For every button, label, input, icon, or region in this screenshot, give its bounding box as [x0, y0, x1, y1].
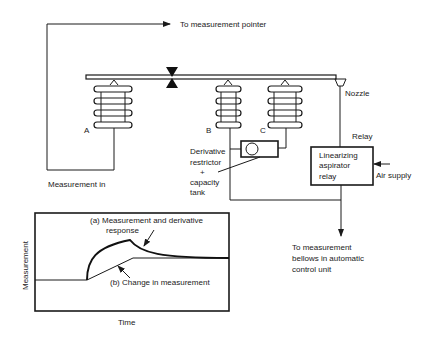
- series-b-label: (b) Change in measurement: [110, 278, 210, 287]
- chart-xlabel: Time: [118, 318, 136, 327]
- relay-box-label-1: Linearizing: [319, 151, 358, 160]
- relay-label: Relay: [352, 132, 372, 141]
- restrictor-tank: [241, 141, 278, 157]
- label-a: A: [84, 126, 90, 135]
- relay-box-label-3: relay: [319, 172, 336, 181]
- bellows-a: [94, 80, 132, 128]
- bellows-c: [268, 80, 302, 128]
- pneumatic-derivative-diagram: To measurement pointer A Measurement in …: [0, 0, 438, 338]
- nozzle-icon: [335, 79, 346, 86]
- series-a-label-1: (a) Measurement and derivative: [90, 216, 203, 225]
- chart-ylabel: Measurement: [21, 240, 30, 290]
- restrictor-label-2: restrictor: [190, 158, 221, 167]
- label-c: C: [260, 126, 266, 135]
- series-a-line: [87, 240, 229, 280]
- output-label-1: To measurement: [292, 243, 352, 252]
- nozzle-label: Nozzle: [345, 89, 370, 98]
- restrictor-label: Derivative: [190, 147, 226, 156]
- restrictor-icon: [246, 143, 258, 155]
- label-b: B: [206, 126, 211, 135]
- restrictor-label-4: capacity: [190, 178, 219, 187]
- measurement-in-label: Measurement in: [48, 180, 105, 189]
- output-label-2: bellows in automatic: [292, 254, 364, 263]
- restrictor-label-3: +: [200, 168, 205, 177]
- relay-box-label-2: aspirator: [319, 161, 350, 170]
- response-chart: Measurement Time (a) Measurement and der…: [21, 213, 229, 327]
- series-b-line: [35, 258, 229, 280]
- beam: [86, 75, 336, 79]
- output-label-3: control unit: [292, 265, 332, 274]
- series-a-label-2: response: [106, 226, 139, 235]
- restrictor-label-5: tank: [190, 188, 206, 197]
- pointer-line: [47, 24, 170, 170]
- bellows-b: [216, 80, 241, 128]
- pointer-label: To measurement pointer: [180, 20, 267, 29]
- air-supply-label: Air supply: [376, 171, 411, 180]
